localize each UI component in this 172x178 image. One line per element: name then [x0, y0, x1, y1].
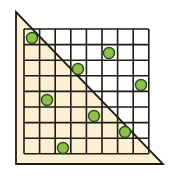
- triangle-grid-diagram: [0, 0, 172, 178]
- green-dot: [89, 111, 100, 122]
- green-dot: [58, 143, 69, 154]
- green-dot: [120, 127, 131, 138]
- green-dot: [27, 33, 38, 44]
- green-dot: [136, 80, 147, 91]
- green-dot: [73, 64, 84, 75]
- green-dot: [42, 95, 53, 106]
- green-dot: [104, 48, 115, 59]
